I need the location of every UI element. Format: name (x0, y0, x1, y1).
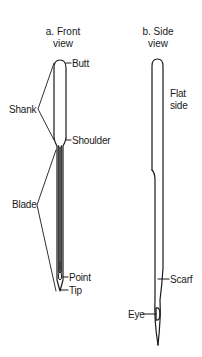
label-shoulder: Shoulder (72, 135, 110, 146)
label-shank: Shank (9, 104, 36, 115)
label-tip: Tip (69, 285, 82, 296)
label-flat-side-line1: Flat (170, 88, 188, 100)
label-flat-side-line2: side (170, 100, 188, 112)
label-flat-side: Flat side (170, 88, 188, 112)
label-scarf: Scarf (170, 274, 192, 285)
label-blade: Blade (12, 199, 37, 210)
label-point: Point (69, 272, 91, 283)
label-butt: Butt (72, 58, 89, 69)
label-eye: Eye (128, 309, 145, 320)
side-needle (143, 59, 169, 345)
front-needle (37, 60, 71, 291)
needle-drawings (0, 0, 202, 357)
